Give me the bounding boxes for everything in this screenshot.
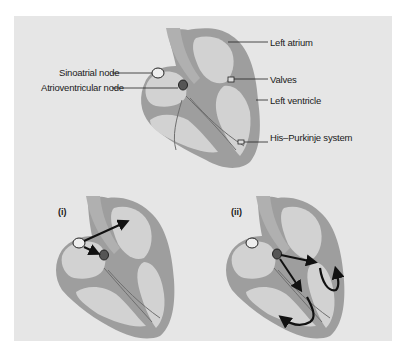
label-sinoatrial-node: Sinoatrial node [59, 67, 119, 78]
heart-i [56, 196, 174, 338]
label-left-ventricle: Left ventricle [270, 95, 321, 106]
label-atrioventricular-node: Atrioventricular node [41, 82, 124, 93]
label-left-atrium: Left atrium [270, 37, 313, 48]
heart-diagrams [0, 0, 408, 357]
top-heart [112, 28, 268, 168]
label-his-purkinje-system: His–Purkinje system [270, 132, 352, 143]
subfigure-label-i: (i) [58, 207, 67, 217]
label-valves: Valves [270, 74, 297, 85]
subfigure-label-ii: (ii) [231, 207, 242, 217]
heart-ii [226, 196, 344, 338]
